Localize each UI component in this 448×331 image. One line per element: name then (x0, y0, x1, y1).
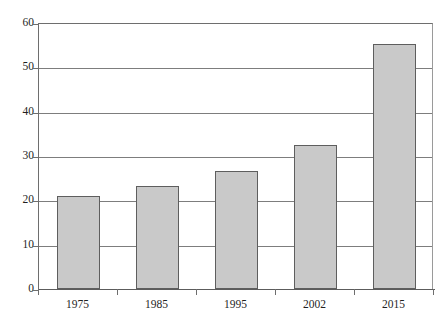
x-axis-tick-label: 2015 (382, 298, 405, 310)
y-axis-tick (32, 24, 39, 25)
bar (373, 44, 416, 289)
y-axis-tick-label: 0 (8, 283, 34, 295)
bar-chart: 0102030405060 19751985199520022015 (0, 0, 448, 331)
y-axis-tick (32, 246, 39, 247)
y-axis-tick-label: 10 (8, 239, 34, 251)
plot-area (38, 23, 433, 289)
x-axis-line (38, 289, 435, 291)
x-axis-tick-label: 1975 (66, 298, 89, 310)
y-axis-tick (32, 201, 39, 202)
x-axis-tick (275, 289, 276, 295)
y-axis-tick (32, 157, 39, 158)
y-axis-tick-label: 30 (8, 150, 34, 162)
x-axis-tick (196, 289, 197, 295)
y-axis-tick-label: 20 (8, 194, 34, 206)
x-axis-tick (117, 289, 118, 295)
x-axis-tick-label: 2002 (303, 298, 326, 310)
bar (136, 186, 179, 289)
y-axis-tick (32, 113, 39, 114)
y-axis-tick-label: 50 (8, 61, 34, 73)
bar (57, 196, 100, 289)
x-axis-tick-label: 1995 (224, 298, 247, 310)
x-axis-tick (433, 289, 434, 295)
x-axis-tick-label: 1985 (145, 298, 168, 310)
x-axis-tick (38, 289, 39, 295)
x-axis-tick (354, 289, 355, 295)
y-axis-tick (32, 68, 39, 69)
bar (215, 171, 258, 289)
y-axis-tick-label: 40 (8, 106, 34, 118)
bar (294, 145, 337, 289)
y-axis-tick-label: 60 (8, 17, 34, 29)
